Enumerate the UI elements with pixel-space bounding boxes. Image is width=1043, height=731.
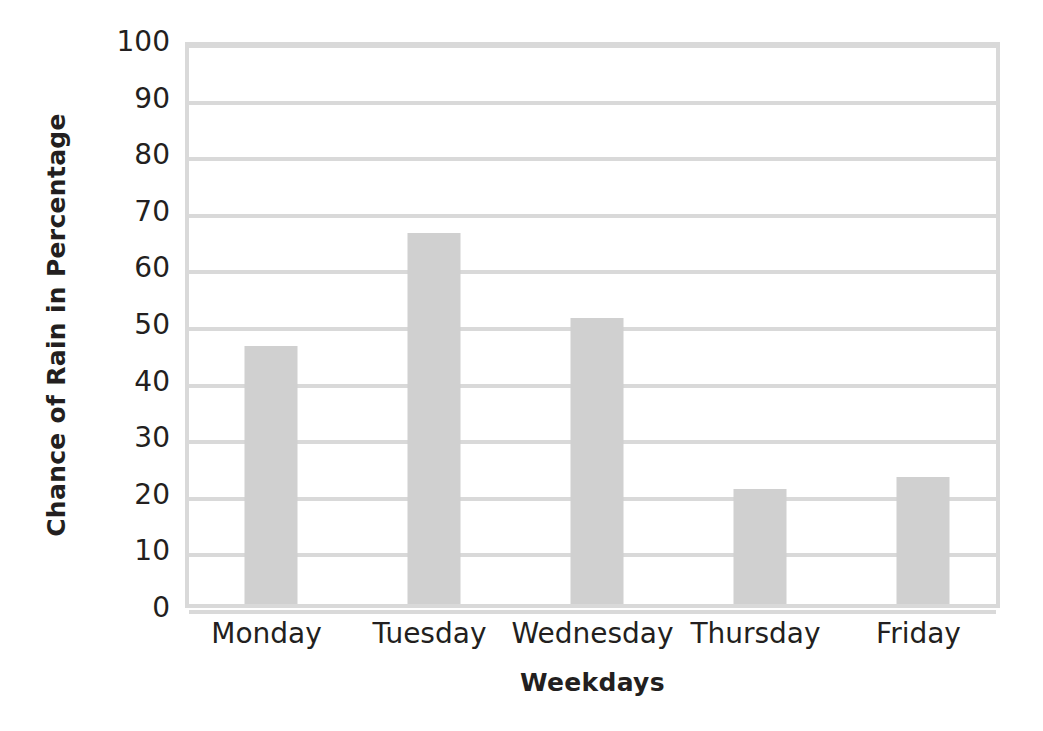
bar-slot [841,46,1004,604]
bar[interactable] [733,489,786,604]
y-axis-tick-label: 70 [88,198,170,226]
y-axis-title: Chance of Rain in Percentage [40,42,74,608]
bar-slot [189,46,352,604]
bar-slot [352,46,515,604]
plot-area [185,42,1000,608]
bar[interactable] [570,318,623,604]
x-axis-tick-label: Thursday [674,612,837,656]
bar[interactable] [244,346,297,604]
y-axis-tick-label: 20 [88,481,170,509]
y-axis-tick-label: 40 [88,368,170,396]
y-axis-tick-label: 0 [88,594,170,622]
y-axis-tick-label: 60 [88,254,170,282]
y-axis-tick-label: 80 [88,141,170,169]
y-axis-tick-label: 100 [88,28,170,56]
bar-chart: Chance of Rain in Percentage 01020304050… [0,0,1043,731]
x-axis-title: Weekdays [185,668,1000,697]
y-axis-tick-labels: 0102030405060708090100 [88,42,170,608]
bar-slot [515,46,678,604]
bar[interactable] [407,233,460,604]
x-axis-tick-label: Monday [185,612,348,656]
bar[interactable] [896,477,949,604]
x-axis-tick-label: Tuesday [348,612,511,656]
bars-layer [189,46,996,604]
x-axis-tick-label: Wednesday [511,612,674,656]
y-axis-tick-label: 90 [88,85,170,113]
y-axis-tick-label: 30 [88,424,170,452]
y-axis-tick-label: 50 [88,311,170,339]
x-axis-tick-label: Friday [837,612,1000,656]
bar-slot [678,46,841,604]
y-axis-tick-label: 10 [88,537,170,565]
x-axis-tick-labels: MondayTuesdayWednesdayThursdayFriday [185,612,1000,656]
